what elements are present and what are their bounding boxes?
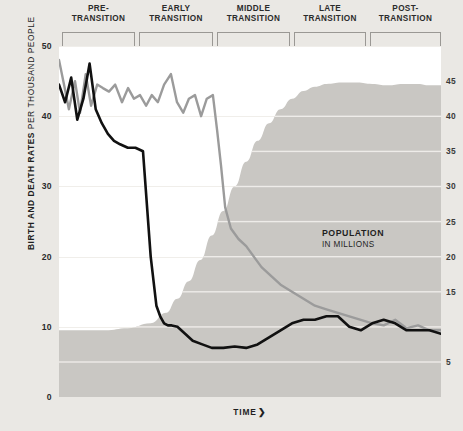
stage-2: EARLY TRANSITION [139, 0, 213, 46]
stage-3: MIDDLE TRANSITION [217, 0, 290, 46]
y-left-tick-20: 20 [26, 252, 52, 262]
stage-4: LATE TRANSITION [294, 0, 366, 46]
stage-bracket-5 [370, 32, 441, 46]
y-right-tick-40: 40 [446, 111, 463, 121]
y-right-tick-30: 30 [446, 181, 463, 191]
y-right-tick-15: 15 [446, 287, 463, 297]
stage-bracket-3 [217, 32, 290, 46]
y-axis-left-title: BIRTH AND DEATH RATES PER THOUSAND PEOPL… [26, 60, 36, 250]
y-left-tick-30: 30 [26, 181, 52, 191]
x-axis-caption-text: TIME [233, 407, 257, 417]
demographic-transition-figure: DEMOGRAPHIC TRANSITION❯ POPULATION IN MI… [0, 0, 463, 431]
stage-1: PRE- TRANSITION [62, 0, 135, 46]
y-right-tick-45: 45 [446, 76, 463, 86]
stage-bracket-2 [139, 32, 213, 46]
y-right-tick-25: 25 [446, 217, 463, 227]
y-right-tick-20: 20 [446, 252, 463, 262]
stage-label-3: MIDDLE TRANSITION [217, 4, 290, 24]
stage-label-2: EARLY TRANSITION [139, 4, 213, 24]
x-axis-caption: TIME❯ [59, 407, 441, 417]
population-annotation: POPULATION IN MILLIONS [322, 228, 384, 250]
birth-rate-line [59, 60, 441, 330]
rate-lines [59, 46, 441, 397]
population-annotation-title: POPULATION [322, 228, 384, 239]
stage-5: POST- TRANSITION [370, 0, 441, 46]
death-rate-line [59, 64, 441, 348]
time-right-arrow-icon: ❯ [257, 407, 267, 417]
population-annotation-subtitle: IN MILLIONS [322, 239, 384, 250]
y-right-tick-5: 5 [446, 357, 463, 367]
y-left-tick-40: 40 [26, 111, 52, 121]
stage-bracket-4 [294, 32, 366, 46]
stage-bracket-1 [62, 32, 135, 46]
stage-label-4: LATE TRANSITION [294, 4, 366, 24]
stage-label-5: POST- TRANSITION [370, 4, 441, 24]
plot-area [59, 46, 441, 397]
y-right-tick-35: 35 [446, 146, 463, 156]
stage-label-1: PRE- TRANSITION [62, 4, 135, 24]
y-left-tick-0: 0 [26, 392, 52, 402]
y-left-tick-10: 10 [26, 322, 52, 332]
y-left-tick-50: 50 [26, 41, 52, 51]
